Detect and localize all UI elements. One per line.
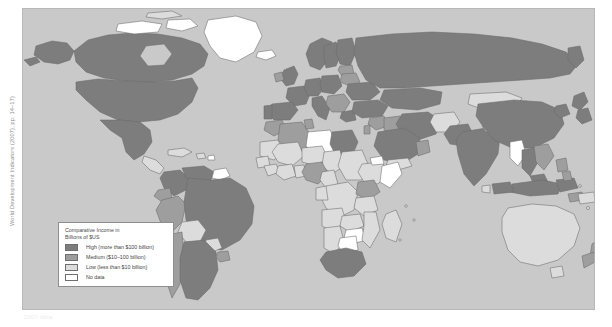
legend-item-low: Low (less than $10 billion) — [65, 263, 168, 272]
legend-label-high: High (more than $100 billion) — [86, 244, 154, 250]
world-map: .hi{fill:#7d7d7d;stroke:#6b6b6b;stroke-w… — [22, 8, 595, 310]
legend-swatch-high — [65, 244, 78, 251]
legend-label-nodata: No data — [86, 274, 105, 280]
legend-label-low: Low (less than $10 billion) — [86, 264, 147, 270]
source-credit: World Development Indicators (2007), pp.… — [9, 76, 15, 226]
legend-title-line2: Billions of $US — [65, 234, 168, 241]
legend-swatch-medium — [65, 254, 78, 261]
legend-swatch-low — [65, 264, 78, 271]
map-page: World Development Indicators (2007), pp.… — [0, 0, 612, 327]
legend-item-medium: Medium ($10–100 billion) — [65, 253, 168, 262]
legend-item-high: High (more than $100 billion) — [65, 243, 168, 252]
legend-label-medium: Medium ($10–100 billion) — [86, 254, 145, 260]
legend-title-line1: Comparative Income in — [65, 227, 168, 234]
legend-swatch-nodata — [65, 274, 78, 281]
legend-title: Comparative Income in Billions of $US — [65, 227, 168, 240]
legend-item-nodata: No data — [65, 273, 168, 282]
bottom-caption: 2007 data — [24, 314, 53, 320]
map-legend: Comparative Income in Billions of $US Hi… — [58, 222, 174, 287]
